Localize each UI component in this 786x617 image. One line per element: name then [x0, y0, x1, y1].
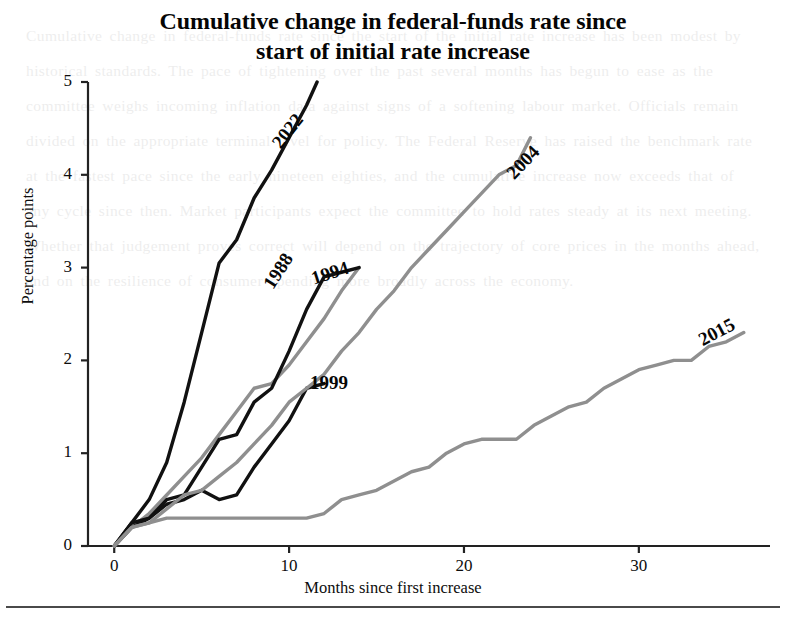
x-tick-label-10: 10 [269, 556, 309, 576]
y-tick-label-5: 5 [36, 71, 72, 91]
page-bottom-rule [6, 606, 780, 608]
x-tick-label-0: 0 [94, 556, 134, 576]
y-tick-label-4: 4 [36, 164, 72, 184]
x-tick-label-30: 30 [619, 556, 659, 576]
x-axis-label: Months since first increase [0, 578, 786, 598]
series-line-1999 [114, 384, 324, 546]
x-tick-label-20: 20 [444, 556, 484, 576]
series-line-2022 [114, 82, 317, 546]
y-tick-label-1: 1 [36, 442, 72, 462]
series-line-1988 [114, 268, 359, 546]
y-tick-label-0: 0 [36, 535, 72, 555]
series-line-2015 [114, 333, 744, 546]
axes [81, 82, 770, 553]
y-tick-label-2: 2 [36, 349, 72, 369]
series-label-1999: 1999 [310, 372, 348, 394]
y-axis-label: Percentage points [18, 156, 38, 336]
plot-area [0, 0, 786, 617]
y-tick-label-3: 3 [36, 257, 72, 277]
series-lines [114, 82, 744, 546]
chart-figure: Cumulative change in federal-funds rate … [0, 0, 786, 617]
series-line-1994 [114, 268, 359, 546]
